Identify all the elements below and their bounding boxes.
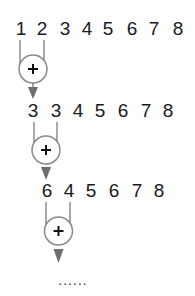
row-3-value: 7	[132, 180, 143, 201]
row-2-value: 3	[51, 100, 62, 121]
row-3-value: 4	[64, 180, 75, 201]
row-3-value: 6	[42, 180, 53, 201]
row-2-value: 3	[28, 100, 39, 121]
add-operation-3	[45, 202, 73, 263]
prefix-sum-diagram: 1 2 3 4 5 6 7 8 3 3 4 5 6 7 8 6	[0, 0, 195, 296]
row-1-value: 4	[82, 18, 93, 39]
add-operation-1	[19, 40, 47, 99]
row-3: 6 4 5 6 7 8	[42, 180, 165, 201]
row-2: 3 3 4 5 6 7 8	[28, 100, 174, 121]
row-1: 1 2 3 4 5 6 7 8	[16, 18, 184, 39]
row-1-value: 8	[173, 18, 184, 39]
row-2-value: 5	[95, 100, 106, 121]
row-3-value: 6	[109, 180, 120, 201]
row-3-value: 8	[154, 180, 165, 201]
add-operation-2	[32, 122, 60, 180]
arrow-down-icon	[54, 249, 64, 263]
arrow-down-icon	[41, 167, 51, 180]
row-2-value: 4	[73, 100, 84, 121]
row-1-value: 2	[37, 18, 48, 39]
row-1-value: 7	[149, 18, 160, 39]
continuation-ellipsis: ......	[58, 272, 87, 288]
row-2-value: 8	[163, 100, 174, 121]
row-1-value: 5	[103, 18, 114, 39]
row-2-value: 7	[141, 100, 152, 121]
row-2-value: 6	[118, 100, 129, 121]
row-1-value: 3	[60, 18, 71, 39]
row-1-value: 6	[127, 18, 138, 39]
arrow-down-icon	[28, 87, 38, 99]
row-3-value: 5	[86, 180, 97, 201]
row-1-value: 1	[16, 18, 27, 39]
